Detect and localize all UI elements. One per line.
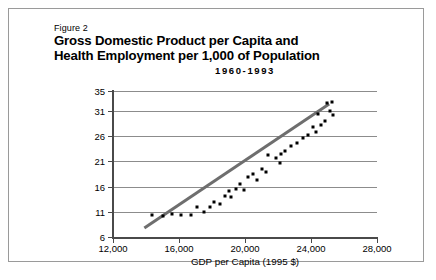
data-point: [280, 152, 283, 155]
data-point: [229, 195, 232, 198]
y-axis-tick-label: 11: [95, 206, 105, 217]
data-point: [278, 162, 281, 165]
y-axis-tick-label: 21: [94, 156, 105, 167]
data-point: [234, 188, 237, 191]
y-axis-tick-label: 35: [94, 86, 105, 97]
data-point: [261, 167, 264, 170]
y-axis-tick-label: 16: [94, 181, 105, 192]
data-point: [311, 125, 314, 128]
data-point: [213, 200, 216, 203]
data-point: [228, 190, 231, 193]
figure-container: Figure 2 Gross Domestic Product per Capi…: [0, 0, 436, 280]
data-point: [219, 202, 222, 205]
data-point: [314, 130, 317, 133]
figure-number-label: Figure 2: [54, 23, 88, 33]
data-point: [252, 173, 255, 176]
x-axis-tick-label: 24,000: [296, 243, 325, 254]
x-axis-tick-label: 16,000: [164, 243, 193, 254]
data-point: [290, 145, 293, 148]
x-axis-tick-label: 12,000: [98, 243, 127, 254]
data-point: [224, 194, 227, 197]
page-title: Gross Domestic Product per Capita and He…: [54, 34, 320, 63]
data-point: [301, 137, 304, 140]
y-axis-tick-label: 31: [94, 106, 105, 117]
data-point: [267, 154, 270, 157]
data-point: [265, 170, 268, 173]
x-axis-tick-label: 28,000: [362, 243, 391, 254]
y-axis-tick-label: 26: [94, 131, 105, 142]
data-point: [202, 211, 205, 214]
data-point: [243, 188, 246, 191]
data-point: [325, 102, 328, 105]
data-point: [274, 157, 277, 160]
data-point: [247, 176, 250, 179]
scatter-plot-area: 6111621263135 12,00016,00020,00024,00028…: [113, 91, 377, 237]
data-point: [170, 213, 173, 216]
x-axis-title: GDP per Capita (1995 $): [113, 256, 377, 267]
data-point: [239, 182, 242, 185]
data-point: [179, 213, 182, 216]
data-point: [161, 214, 164, 217]
data-point: [319, 124, 322, 127]
title-line-1: Gross Domestic Product per Capita and: [54, 34, 320, 49]
data-point: [328, 109, 331, 112]
data-point: [317, 112, 320, 115]
data-point: [256, 179, 259, 182]
data-point: [150, 213, 153, 216]
data-point: [196, 206, 199, 209]
x-axis-tick-label: 20,000: [230, 243, 259, 254]
figure-frame: Figure 2 Gross Domestic Product per Capi…: [8, 8, 424, 262]
y-axis-title: Health Employment per 1,000 of Populatio…: [0, 38, 5, 184]
data-point: [332, 114, 335, 117]
chart-subtitle-year-range: 1960-1993: [113, 65, 377, 76]
y-axis-tick-label: 6: [100, 232, 105, 243]
data-point: [324, 120, 327, 123]
data-point: [331, 100, 334, 103]
data-point: [295, 142, 298, 145]
data-point: [284, 149, 287, 152]
data-point: [190, 214, 193, 217]
data-point: [306, 133, 309, 136]
data-point: [209, 205, 212, 208]
title-line-2: Health Employment per 1,000 of Populatio…: [54, 49, 320, 64]
